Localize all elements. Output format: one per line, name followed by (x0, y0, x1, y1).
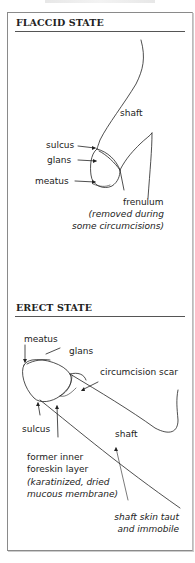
erect-glans-label: glans (69, 345, 93, 357)
frenulum-note-line1: (removed during (89, 208, 165, 220)
shaft-skin-note-line2: and immobile (117, 523, 179, 535)
shaft-skin-note-line1: shaft skin taut (114, 511, 179, 523)
erect-sulcus-label: sulcus (22, 423, 50, 435)
erect-heading: ERECT STATE (16, 302, 92, 313)
former-foreskin-note-line2: mucous membrane) (27, 488, 118, 500)
flaccid-meatus-label: meatus (35, 175, 69, 187)
former-foreskin-line1: former inner (27, 451, 83, 463)
erect-shaft-label: shaft (115, 428, 137, 440)
former-foreskin-note-line1: (karatinized, dried (27, 476, 110, 488)
erect-heading-rule (15, 316, 185, 317)
flaccid-shaft-label: shaft (120, 107, 142, 119)
flaccid-glans-label: glans (47, 154, 71, 166)
erect-meatus-label: meatus (24, 333, 58, 345)
flaccid-frenulum-label: frenulum (123, 196, 164, 208)
flaccid-sulcus-label: sulcus (46, 139, 74, 151)
former-foreskin-line2: foreskin layer (27, 463, 88, 475)
frenulum-note-line2: some circumcisions) (72, 220, 164, 232)
circumcision-scar-label: circumcision scar (100, 366, 178, 378)
